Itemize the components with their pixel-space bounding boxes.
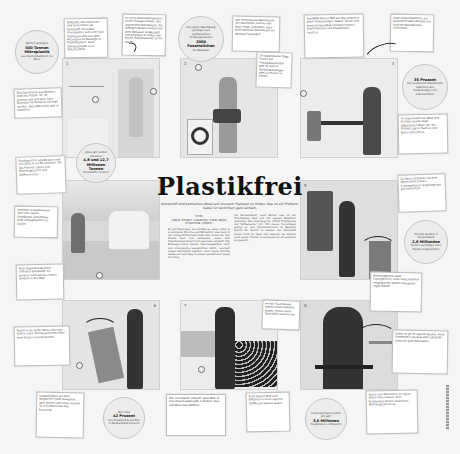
note-callout: Plastikgeschirr und Besteck sind seit 20… — [15, 155, 66, 195]
person-vending — [339, 201, 355, 277]
person-bins — [127, 309, 143, 389]
page-title: Plastikfrei — [150, 172, 310, 201]
person-man-picnic — [109, 211, 149, 249]
connector-arrow-icon — [356, 324, 396, 348]
byline-authors: JANA OTERO (GRAFIK) UND ANJA FORSTER (TE… — [168, 219, 230, 226]
note-callout: An der Frischetheke eigene Dosen befülle… — [261, 299, 300, 330]
note-callout: Coffee to go im eigenen Becher. Auch Str… — [392, 330, 449, 375]
stat-fibers: Bei jedem Waschgang gelangen aus synthet… — [178, 16, 224, 62]
note-callout: Zu Hause Getränke aus dem Wasserhahn tri… — [397, 173, 446, 213]
marker-dot — [198, 366, 205, 373]
panel-number: 7 — [184, 303, 187, 308]
note-callout: Wer unverpackt einkauft, spart Müll. In … — [166, 394, 226, 436]
panel-picnic: 4 — [62, 180, 160, 280]
note-callout: Getränke in Glasflaschen oder eine eigen… — [14, 206, 59, 239]
person-waiter — [323, 307, 363, 390]
note-callout: Verpackungen vor dem Wegwerfen nicht aus… — [36, 392, 85, 439]
panel-number: 8 — [304, 303, 307, 308]
infographic-page: 1 2 3 4 5 6 7 — [0, 0, 460, 454]
kitchen-table — [319, 121, 367, 125]
stat-cups: Pro Jahr werden in Deutschland 2,8 Milli… — [404, 220, 448, 264]
marker-dot — [92, 96, 99, 103]
panel-kitchen: 3 — [300, 58, 398, 158]
stat-microplastic: Jährlich gelangen 500 Tonnen Mikroplasti… — [15, 30, 59, 74]
note-callout: Essen zum Mitnehmen in eigene Boxen füll… — [366, 390, 419, 435]
marker-dot — [150, 88, 157, 95]
stat-packaging: 35 Prozent des weltweiten Plastikmülls s… — [402, 64, 448, 110]
stat-ocean-plastic: Jedes Jahr landen zwischen 4,8 und 12,7 … — [76, 143, 116, 183]
note-callout: Wer Kleidung aus Naturfasern wie Baumwol… — [232, 16, 281, 53]
connector-arrow-icon — [82, 318, 118, 340]
note-callout: Im Supermarkt lose Obst und Gemüse kaufe… — [398, 114, 449, 155]
subtitle: Kunststoff sind komischen Abrall auf uns… — [160, 202, 300, 211]
article-column-2: Am Wochenmarkt, beim Bäcker oder an der … — [234, 214, 296, 280]
note-callout: Ein Waschbeutel fängt Fasern auf. Flüssi… — [255, 51, 292, 88]
washing-machine-drum — [191, 127, 209, 145]
note-callout: Plastik in die Gelbe Tonne oder den Gelb… — [14, 326, 71, 367]
vending-machine — [307, 191, 333, 251]
note-callout: Eine Zahnbürste aus Bambus statt aus Pla… — [13, 87, 62, 119]
panel-number: 2 — [184, 61, 187, 66]
panel-bins: 6 — [62, 300, 160, 390]
produce-display — [235, 341, 277, 387]
panel-vending: 5 — [300, 180, 398, 280]
note-callout: Gut 6000 Tonnen Müll am Tag entstehen du… — [304, 13, 365, 58]
note-callout: Beim Bäcker Brot und Brötchen in einen e… — [246, 392, 291, 433]
laundry-basket — [213, 109, 241, 123]
note-callout: Auch Zigarettenstummel enthalten Kunstst… — [16, 264, 65, 301]
byline: VON JANA OTERO (GRAFIK) UND ANJA FORSTER… — [168, 215, 230, 226]
note-callout: Mehrwegbecher statt Einwegbecher: Viele … — [370, 272, 423, 313]
stat-recycling: Nur etwa 42 Prozent des Plastikmülls wer… — [103, 397, 145, 439]
connector-arrow-icon — [360, 236, 396, 260]
photo-credit-strip — [446, 385, 449, 430]
marker-dot — [195, 64, 202, 71]
stat-plastic-bags: In Deutschland werden pro Jahr 3,6 Milli… — [305, 398, 347, 440]
article-column-1: Es gibt Menschen, die schaffen es, keine… — [168, 228, 230, 280]
serving-tray — [315, 365, 373, 369]
person-shopper — [215, 307, 235, 389]
panel-number: 6 — [153, 303, 156, 308]
panel-bathroom: 1 — [62, 58, 160, 158]
marker-dot — [300, 90, 307, 97]
chair-illustration — [307, 111, 321, 141]
person-kitchen — [363, 87, 381, 155]
panel-number: 1 — [66, 61, 69, 66]
marker-dot — [96, 272, 103, 279]
marker-dot — [76, 362, 83, 369]
person-woman-picnic — [71, 213, 85, 253]
person-showering — [129, 77, 143, 137]
